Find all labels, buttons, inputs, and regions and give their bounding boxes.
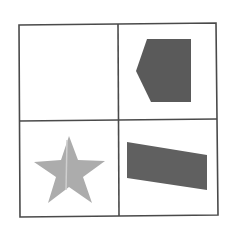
grid-horizontal-divider bbox=[19, 119, 217, 121]
puzzle-grid-canvas bbox=[0, 0, 238, 233]
star-fold-line bbox=[66, 140, 67, 190]
cell-bottom-right bbox=[127, 142, 207, 190]
slanted-quadrilateral-shape bbox=[127, 142, 207, 190]
pentagon-arrow-shape bbox=[136, 39, 191, 102]
star-shape bbox=[34, 136, 105, 203]
puzzle-grid bbox=[0, 0, 238, 233]
cell-bottom-left bbox=[34, 136, 105, 203]
cell-top-right bbox=[136, 39, 191, 102]
